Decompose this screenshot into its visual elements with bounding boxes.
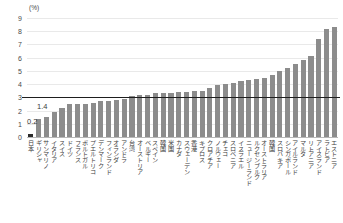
x-axis-tick-label: イタリア bbox=[51, 140, 58, 223]
bar[interactable] bbox=[277, 71, 282, 137]
bar-slot bbox=[229, 18, 237, 137]
bar-slot bbox=[299, 18, 307, 137]
x-label-slot: 日本 bbox=[27, 140, 35, 223]
x-axis-tick-label: アンドラ bbox=[121, 140, 128, 223]
bar[interactable] bbox=[207, 88, 212, 137]
x-axis-tick-label: ポルトガル bbox=[82, 140, 89, 223]
bar[interactable] bbox=[67, 104, 72, 137]
bar[interactable] bbox=[262, 78, 267, 138]
bar[interactable] bbox=[98, 101, 103, 137]
bar-slot bbox=[43, 18, 51, 137]
bar[interactable] bbox=[52, 112, 57, 137]
bar[interactable] bbox=[270, 75, 275, 137]
bar[interactable] bbox=[168, 93, 173, 137]
bar[interactable] bbox=[246, 80, 251, 137]
bar-slot bbox=[307, 18, 315, 137]
bar-slot bbox=[58, 18, 66, 137]
bar[interactable] bbox=[145, 95, 150, 137]
x-label-slot: ニュージーランド bbox=[245, 140, 253, 223]
x-label-slot: オーストラリア bbox=[260, 140, 268, 223]
bar[interactable] bbox=[137, 95, 142, 137]
x-axis-tick-label: イスラエル bbox=[237, 140, 244, 223]
x-label-slot: キプロス bbox=[198, 140, 206, 223]
x-axis-tick-label: カナダ bbox=[175, 140, 182, 223]
x-axis-tick-label: ドイツ bbox=[66, 140, 73, 223]
bar[interactable] bbox=[293, 64, 298, 137]
bar-slot bbox=[330, 18, 338, 137]
bar-chart: (%) 0123456789 0.2 1.4 日本ギリシャサンマリノイタリアスイ… bbox=[0, 0, 343, 223]
x-label-slot: カナダ bbox=[175, 140, 183, 223]
x-axis-tick-label: ルクセンブルク bbox=[253, 140, 260, 223]
bar-slot bbox=[222, 18, 230, 137]
bar[interactable] bbox=[332, 27, 337, 137]
x-axis-tick-label: オーストリア bbox=[136, 140, 143, 223]
bar[interactable] bbox=[176, 92, 181, 137]
bar[interactable] bbox=[44, 117, 49, 137]
x-axis-tick-label: デンマーク bbox=[97, 140, 104, 223]
bar[interactable] bbox=[91, 103, 96, 137]
bar[interactable] bbox=[75, 104, 80, 137]
x-axis-tick-label: スウェーデン bbox=[183, 140, 190, 223]
bar[interactable] bbox=[223, 84, 228, 137]
bar[interactable] bbox=[215, 85, 220, 137]
y-axis-tick-label: 6 bbox=[18, 54, 22, 61]
x-label-slot: デンマーク bbox=[97, 140, 105, 223]
x-label-slot: 韓国 bbox=[159, 140, 167, 223]
bar-slot bbox=[315, 18, 323, 137]
x-axis-tick-label: ラトビア bbox=[323, 140, 330, 223]
bar[interactable] bbox=[285, 68, 290, 137]
x-axis-tick-label: マルタ bbox=[300, 140, 307, 223]
y-axis: 0123456789 bbox=[0, 0, 27, 155]
bar[interactable] bbox=[254, 79, 259, 137]
bar[interactable] bbox=[324, 29, 329, 137]
x-label-slot: ルクセンブルク bbox=[253, 140, 261, 223]
x-label-slot: ギリシャ bbox=[35, 140, 43, 223]
x-label-slot: 香港 bbox=[190, 140, 198, 223]
bar-slot bbox=[206, 18, 214, 137]
x-label-slot: ポルトガル bbox=[81, 140, 89, 223]
x-label-slot: イスラエル bbox=[237, 140, 245, 223]
y-axis-tick-label: 2 bbox=[18, 107, 22, 114]
y-axis-tick-label: 8 bbox=[18, 28, 22, 35]
bar[interactable] bbox=[153, 93, 158, 137]
x-axis-tick-label: アイルランド bbox=[292, 140, 299, 223]
bar[interactable] bbox=[106, 101, 111, 137]
x-label-slot: マルタ bbox=[299, 140, 307, 223]
bar[interactable] bbox=[231, 83, 236, 137]
bar-slot bbox=[190, 18, 198, 137]
x-axis-tick-label: サンマリノ bbox=[43, 140, 50, 223]
x-label-slot: ベルギー bbox=[144, 140, 152, 223]
x-label-slot: 米国 bbox=[167, 140, 175, 223]
x-axis-tick-label: クロアチア bbox=[206, 140, 213, 223]
x-label-slot: 韓国 bbox=[268, 140, 276, 223]
y-axis-tick-label: 5 bbox=[18, 67, 22, 74]
bar[interactable] bbox=[122, 99, 127, 137]
bar[interactable] bbox=[301, 60, 306, 137]
bar[interactable] bbox=[129, 96, 134, 137]
x-axis-tick-label: 日本 bbox=[27, 140, 34, 223]
bar[interactable] bbox=[59, 108, 64, 137]
bar[interactable] bbox=[238, 81, 243, 137]
x-label-slot: アンドラ bbox=[120, 140, 128, 223]
y-axis-tick-label: 4 bbox=[18, 81, 22, 88]
x-axis-tick-label: リトアニア bbox=[308, 140, 315, 223]
x-axis-tick-label: 台湾 bbox=[129, 140, 136, 223]
x-label-slot: リトアニア bbox=[307, 140, 315, 223]
bar[interactable] bbox=[114, 100, 119, 137]
bar[interactable] bbox=[316, 39, 321, 137]
y-axis-tick-label: 9 bbox=[18, 15, 22, 22]
x-axis-tick-label: 香港 bbox=[191, 140, 198, 223]
bar[interactable] bbox=[184, 92, 189, 137]
bar[interactable] bbox=[161, 93, 166, 137]
x-axis-tick-label: スロベニア bbox=[230, 140, 237, 223]
bar[interactable] bbox=[83, 104, 88, 137]
bar[interactable] bbox=[28, 134, 33, 137]
x-label-slot: プエルトリコ bbox=[89, 140, 97, 223]
bar-slot bbox=[66, 18, 74, 137]
value-label-japan: 0.2 bbox=[27, 118, 37, 126]
x-axis-tick-label: フランス bbox=[74, 140, 81, 223]
x-label-slot: クロアチア bbox=[206, 140, 214, 223]
bar-slot bbox=[245, 18, 253, 137]
x-label-slot: スロベニア bbox=[229, 140, 237, 223]
x-axis-tick-label: オランダ bbox=[113, 140, 120, 223]
